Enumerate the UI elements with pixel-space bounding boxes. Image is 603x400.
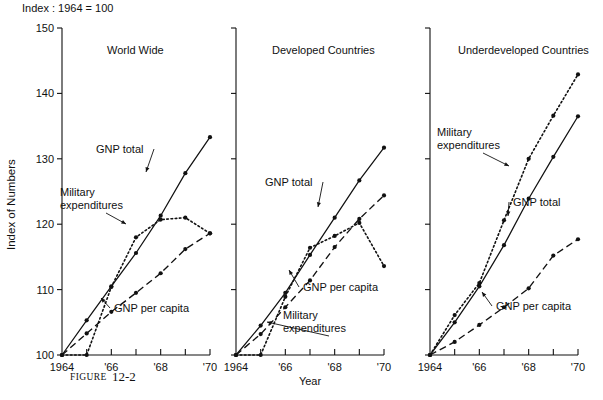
data-point [183, 171, 187, 175]
data-point [527, 286, 531, 290]
data-point [134, 251, 138, 255]
data-point [109, 310, 113, 314]
data-point [134, 235, 138, 239]
data-point [576, 72, 580, 76]
data-point [308, 253, 312, 257]
data-point [109, 285, 113, 289]
x-tick-label: '70 [377, 361, 391, 373]
series-label: Military [283, 309, 318, 321]
annotation-military-expenditures: Militaryexpenditures [267, 309, 346, 336]
data-point [502, 218, 506, 222]
series-label: GNP per capita [496, 300, 572, 312]
y-tick-label: 140 [36, 87, 54, 99]
series-label: GNP total [96, 143, 144, 155]
data-point [85, 318, 89, 322]
data-point [382, 264, 386, 268]
data-point [234, 353, 238, 357]
annotation-gnp-per-capita: GNP per capita [482, 292, 572, 312]
data-point [183, 216, 187, 220]
y-tick-label: 150 [36, 22, 54, 34]
multi-panel-line-chart: Index : 1964 = 100Index of NumbersYearFI… [0, 0, 603, 400]
data-point [477, 323, 481, 327]
data-point [85, 331, 89, 335]
panel-title: World Wide [107, 44, 164, 56]
y-tick-label: 100 [36, 349, 54, 361]
panel-title: Underdeveloped Countries [458, 44, 589, 56]
x-tick-label: '68 [521, 361, 535, 373]
annotation-gnp-per-capita: GNP per capita [289, 270, 379, 293]
annotation-military-expenditures: Militaryexpenditures [60, 186, 126, 224]
x-tick-label: '66 [104, 361, 118, 373]
leader-arrowhead [146, 167, 150, 172]
data-point [308, 246, 312, 250]
figure-caption: FIGURE12-2 [70, 369, 136, 384]
series-line-gnp-total [62, 137, 210, 355]
x-tick-label: 1964 [224, 361, 248, 373]
series-line-military-expenditures [430, 74, 578, 355]
series-label: GNP total [513, 196, 561, 208]
data-point [333, 245, 337, 249]
leader-arrowhead [317, 202, 321, 207]
data-point [159, 218, 163, 222]
figure-caption-label: FIGURE [70, 372, 107, 382]
annotation-gnp-per-capita: GNP per capita [101, 298, 190, 314]
series-label: expenditures [60, 199, 123, 211]
annotation-gnp-total: GNP total [265, 176, 323, 207]
x-tick-label: '66 [472, 361, 486, 373]
data-point [527, 157, 531, 161]
data-point [551, 155, 555, 159]
figure-12-2: Index : 1964 = 100Index of NumbersYearFI… [0, 0, 603, 400]
leader-arrowhead [506, 211, 510, 216]
data-point [159, 271, 163, 275]
series-label: GNP per capita [114, 302, 190, 314]
series-label: GNP total [265, 176, 313, 188]
data-point [259, 323, 263, 327]
data-point [333, 216, 337, 220]
annotation-military-expenditures: Militaryexpenditures [437, 126, 509, 166]
data-point [576, 114, 580, 118]
data-point [551, 114, 555, 118]
data-point [259, 332, 263, 336]
annotation-gnp-total: GNP total [96, 143, 154, 172]
data-point [357, 217, 361, 221]
annotation-gnp-total: GNP total [506, 196, 560, 216]
panel-title: Developed Countries [272, 44, 375, 56]
series-line-gnp-per-capita [430, 239, 578, 355]
series-label: expenditures [437, 139, 500, 151]
data-point [259, 353, 263, 357]
series-label: Military [437, 126, 472, 138]
series-label: GNP per capita [303, 281, 379, 293]
data-point [502, 243, 506, 247]
x-tick-label: 1964 [50, 361, 74, 373]
data-point [208, 231, 212, 235]
data-point [85, 353, 89, 357]
x-tick-label: 1964 [418, 361, 442, 373]
data-point [453, 313, 457, 317]
data-point [428, 353, 432, 357]
data-point [382, 193, 386, 197]
y-tick-label: 110 [36, 284, 54, 296]
series-label: Military [60, 186, 95, 198]
data-point [208, 135, 212, 139]
data-point [551, 253, 555, 257]
data-point [382, 146, 386, 150]
x-tick-label: '66 [278, 361, 292, 373]
y-tick-label: 120 [36, 218, 54, 230]
x-tick-label: '68 [327, 361, 341, 373]
data-point [183, 247, 187, 251]
data-point [60, 353, 64, 357]
data-point [134, 291, 138, 295]
data-point [357, 178, 361, 182]
y-tick-label: 130 [36, 153, 54, 165]
data-point [159, 214, 163, 218]
leader-arrowhead [482, 292, 486, 297]
data-point [333, 234, 337, 238]
data-point [453, 340, 457, 344]
data-point [283, 295, 287, 299]
data-point [477, 281, 481, 285]
panel-axes [236, 28, 384, 355]
data-point [576, 237, 580, 241]
x-tick-label: '70 [203, 361, 217, 373]
x-tick-label: '70 [571, 361, 585, 373]
x-axis-title: Year [299, 375, 322, 387]
